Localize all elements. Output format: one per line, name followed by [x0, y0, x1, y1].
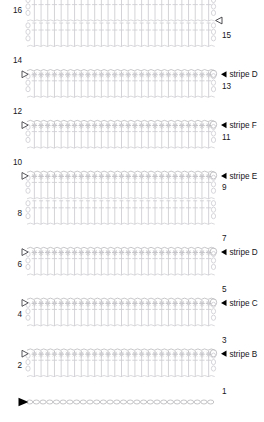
row-number-5: 5 — [222, 285, 227, 294]
row-number-9: 9 — [222, 183, 227, 192]
stripe-label-stripe-d: stripe D — [230, 70, 258, 79]
crochet-chart: 16151413121110987654321stripe Dstripe Fs… — [0, 0, 264, 422]
row-number-14: 14 — [13, 56, 23, 65]
row-number-11: 11 — [222, 133, 231, 142]
chart-canvas: 16151413121110987654321stripe Dstripe Fs… — [0, 0, 264, 422]
row-number-3: 3 — [222, 336, 227, 345]
row-number-1: 1 — [222, 387, 227, 396]
stripe-label-stripe-c: stripe C — [230, 299, 258, 308]
row-number-15: 15 — [222, 31, 232, 40]
row-number-2: 2 — [17, 361, 22, 370]
row-number-4: 4 — [17, 310, 22, 319]
row-number-12: 12 — [13, 107, 23, 116]
row-number-13: 13 — [222, 82, 232, 91]
row-number-16: 16 — [13, 6, 23, 15]
row-number-8: 8 — [17, 209, 22, 218]
stripe-label-stripe-f: stripe F — [230, 121, 257, 130]
row-number-6: 6 — [17, 260, 22, 269]
stripe-label-stripe-e: stripe E — [230, 172, 258, 181]
chart-background — [0, 0, 264, 422]
row-number-7: 7 — [222, 234, 227, 243]
stripe-label-stripe-d: stripe D — [230, 248, 258, 257]
stripe-label-stripe-b: stripe B — [230, 350, 258, 359]
row-number-10: 10 — [13, 158, 23, 167]
